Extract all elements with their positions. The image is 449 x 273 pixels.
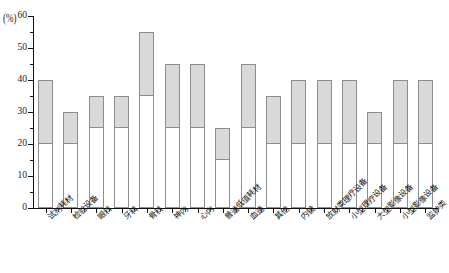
bar-segment-lower: [291, 144, 306, 208]
plot-area: [33, 16, 438, 208]
y-tick-label-wrap: 30: [0, 107, 27, 117]
bar-segment-lower: [165, 128, 180, 208]
bar-segment-upper: [89, 96, 104, 128]
bar-segment-upper: [190, 64, 205, 128]
bar-segment-upper: [241, 64, 256, 128]
bar-segment-upper: [291, 80, 306, 144]
bar-segment-upper: [317, 80, 332, 144]
bar-segment-upper: [165, 64, 180, 128]
bar-segment-lower: [139, 96, 154, 208]
bar-segment-lower: [317, 144, 332, 208]
y-tick-label-wrap: 10: [0, 171, 27, 181]
y-tick-label-wrap: 20: [0, 139, 27, 149]
bar-segment-upper: [114, 96, 129, 128]
bar-segment-lower: [114, 128, 129, 208]
y-tick-label: 60: [3, 11, 27, 21]
y-tick-label: 40: [3, 75, 27, 85]
bar: [114, 96, 129, 208]
y-tick-label-wrap: 0: [0, 203, 27, 213]
bar-segment-upper: [139, 32, 154, 96]
bar-segment-lower: [38, 144, 53, 208]
bar-segment-upper: [342, 80, 357, 144]
bar: [165, 64, 180, 208]
bar-segment-upper: [63, 112, 78, 144]
bar-segment-lower: [190, 128, 205, 208]
bar-segment-upper: [393, 80, 408, 144]
bar: [38, 80, 53, 208]
y-tick-label: 30: [3, 107, 27, 117]
bar: [215, 128, 230, 208]
bar-segment-upper: [418, 80, 433, 144]
bar: [317, 80, 332, 208]
bar-segment-lower: [215, 160, 230, 208]
bar: [139, 32, 154, 208]
bar: [266, 96, 281, 208]
bar-segment-upper: [215, 128, 230, 160]
y-tick-label: 50: [3, 43, 27, 53]
bar: [291, 80, 306, 208]
bar: [190, 64, 205, 208]
bar-segment-lower: [266, 144, 281, 208]
bar-segment-upper: [367, 112, 382, 144]
y-tick-0: [28, 208, 33, 209]
y-tick-label: 20: [3, 139, 27, 149]
y-tick-label-wrap: 50: [0, 43, 27, 53]
bar-segment-upper: [38, 80, 53, 144]
y-tick-label: 10: [3, 171, 27, 181]
bar-segment-upper: [266, 96, 281, 144]
y-tick-label: 0: [3, 203, 27, 213]
y-tick-label-wrap: 60: [0, 11, 27, 21]
y-tick-label-wrap: 40: [0, 75, 27, 85]
